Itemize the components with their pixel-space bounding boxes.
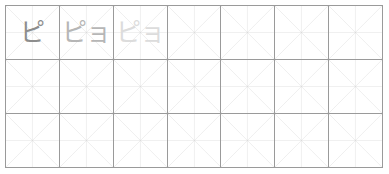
practice-glyph-empty — [275, 114, 328, 167]
practice-cell[interactable] — [60, 114, 114, 168]
katakana-practice-worksheet: ピピョピョ — [0, 0, 389, 174]
practice-glyph-empty — [168, 114, 221, 167]
practice-cell[interactable] — [221, 6, 275, 60]
practice-glyph: ピョ — [114, 6, 167, 59]
practice-glyph-empty — [221, 60, 274, 113]
practice-glyph-empty — [221, 114, 274, 167]
practice-cell[interactable] — [168, 6, 222, 60]
practice-glyph-empty — [275, 60, 328, 113]
practice-glyph-empty — [60, 114, 113, 167]
practice-glyph-empty — [114, 114, 167, 167]
practice-cell[interactable]: ピョ — [114, 6, 168, 60]
practice-cell[interactable] — [275, 60, 329, 114]
practice-glyph-empty — [168, 6, 221, 59]
practice-cell[interactable] — [275, 6, 329, 60]
practice-cell[interactable] — [114, 60, 168, 114]
practice-cell[interactable] — [114, 114, 168, 168]
practice-cell[interactable] — [329, 60, 383, 114]
practice-glyph: ピョ — [60, 6, 113, 59]
practice-glyph-empty — [168, 60, 221, 113]
practice-cell[interactable]: ピョ — [60, 6, 114, 60]
practice-cell[interactable] — [60, 60, 114, 114]
practice-glyph-empty — [221, 6, 274, 59]
practice-grid: ピピョピョ — [5, 5, 383, 168]
practice-cell[interactable] — [275, 114, 329, 168]
practice-cell[interactable] — [168, 114, 222, 168]
practice-cell[interactable] — [221, 114, 275, 168]
practice-cell[interactable] — [168, 60, 222, 114]
practice-glyph-empty — [114, 60, 167, 113]
practice-glyph: ピ — [6, 6, 59, 59]
practice-glyph-empty — [6, 114, 59, 167]
practice-glyph-empty — [60, 60, 113, 113]
practice-cell[interactable] — [6, 60, 60, 114]
practice-cell[interactable] — [329, 6, 383, 60]
practice-cell[interactable] — [329, 114, 383, 168]
practice-glyph-empty — [6, 60, 59, 113]
practice-glyph-empty — [329, 114, 382, 167]
practice-cell[interactable] — [221, 60, 275, 114]
practice-cell[interactable]: ピ — [6, 6, 60, 60]
practice-glyph-empty — [275, 6, 328, 59]
practice-glyph-empty — [329, 60, 382, 113]
practice-cell[interactable] — [6, 114, 60, 168]
practice-glyph-empty — [329, 6, 382, 59]
